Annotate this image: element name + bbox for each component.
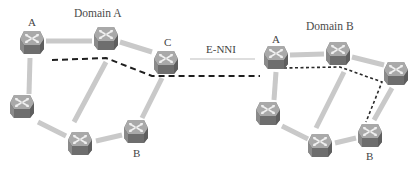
router-a-A <box>20 31 44 54</box>
node-label-domain-a-C: C <box>164 37 171 48</box>
router-b-top <box>326 42 350 65</box>
node-label-domain-a-A: A <box>28 17 36 28</box>
router-b-bottom <box>308 134 332 157</box>
router-a-bottom <box>68 132 92 155</box>
router-b-A <box>264 46 288 69</box>
router-a-left <box>10 95 34 118</box>
domain-b-label: Domain B <box>306 21 354 33</box>
router-b-right <box>384 62 408 85</box>
node-label-domain-b-B: B <box>366 151 373 162</box>
router-a-B <box>124 120 148 143</box>
node-label-domain-b-A: A <box>272 34 280 45</box>
network-diagram <box>0 0 418 171</box>
router-a-top <box>94 27 118 50</box>
domain-a-label: Domain A <box>74 8 122 20</box>
router-b-left <box>256 102 280 125</box>
node-label-domain-a-B: B <box>133 148 140 159</box>
router-b-B <box>358 124 382 147</box>
enni-label: E-NNI <box>206 44 236 55</box>
router-a-C <box>154 51 178 74</box>
